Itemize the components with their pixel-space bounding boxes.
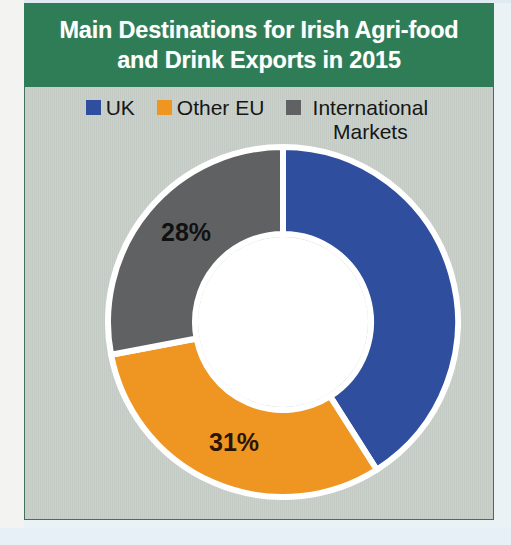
- legend-swatch-other-eu-icon: [157, 100, 172, 115]
- page-title: Main Destinations for Irish Agri-food an…: [59, 15, 458, 75]
- donut-chart: [25, 87, 494, 520]
- legend-label-uk: UK: [106, 96, 135, 120]
- chart-title-banner: Main Destinations for Irish Agri-food an…: [24, 3, 494, 87]
- page-bottom-margin: [0, 528, 511, 545]
- slice-label-international-markets: 28%: [161, 218, 211, 247]
- figure-root: Main Destinations for Irish Agri-food an…: [0, 0, 511, 545]
- page-title-line-1: Main Destinations for Irish Agri-food: [59, 15, 458, 45]
- legend-swatch-uk-icon: [86, 100, 101, 115]
- page-title-line-2: and Drink Exports in 2015: [59, 45, 458, 75]
- legend-item-international[interactable]: International Markets: [286, 96, 434, 143]
- legend-item-uk[interactable]: UK: [86, 96, 135, 120]
- legend-label-international: International Markets: [306, 96, 434, 143]
- legend-swatch-international-icon: [286, 100, 301, 115]
- legend-item-other-eu[interactable]: Other EU: [157, 96, 265, 120]
- chart-legend: UK Other EU International Markets: [25, 96, 494, 143]
- donut-center-hole: [198, 237, 368, 407]
- page-left-margin: [0, 0, 24, 528]
- slice-label-other-eu: 31%: [209, 428, 259, 457]
- chart-panel: UK Other EU International Markets 28% 31…: [24, 87, 494, 520]
- legend-label-other-eu: Other EU: [177, 96, 265, 120]
- donut-chart-svg: [25, 87, 494, 520]
